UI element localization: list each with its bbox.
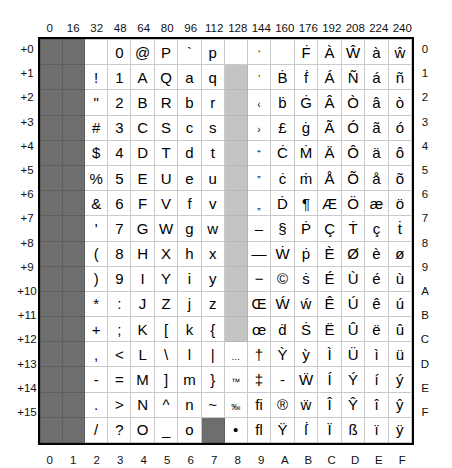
char-cell-85[interactable]: U (154, 165, 177, 190)
char-cell-200[interactable]: È (318, 241, 342, 266)
char-cell-127[interactable] (201, 417, 224, 442)
char-cell-116[interactable]: t (201, 140, 224, 165)
char-cell-245[interactable]: õ (388, 165, 411, 190)
char-cell-108[interactable]: l (178, 342, 201, 367)
char-cell-73[interactable]: I (131, 266, 155, 291)
char-cell-111[interactable]: o (178, 417, 201, 442)
char-cell-112[interactable]: p (201, 40, 224, 65)
char-cell-97[interactable]: a (178, 65, 201, 90)
char-cell-239[interactable]: ï (365, 417, 388, 442)
char-cell-140[interactable]: … (224, 342, 247, 367)
char-cell-227[interactable]: ã (365, 115, 388, 140)
char-cell-202[interactable]: Ê (318, 291, 342, 316)
char-cell-94[interactable]: ^ (154, 392, 177, 417)
char-cell-19[interactable] (62, 115, 84, 140)
char-cell-92[interactable]: \ (154, 342, 177, 367)
char-cell-172[interactable]: Ỳ (271, 342, 294, 367)
char-cell-50[interactable]: 2 (108, 90, 131, 115)
char-cell-93[interactable]: ] (154, 367, 177, 392)
char-cell-214[interactable]: Ö (341, 191, 364, 216)
char-cell-67[interactable]: C (131, 115, 155, 140)
char-cell-243[interactable]: ó (388, 115, 411, 140)
char-cell-130[interactable] (224, 90, 247, 115)
char-cell-192[interactable]: À (318, 40, 342, 65)
char-cell-55[interactable]: 7 (108, 216, 131, 241)
char-cell-0[interactable] (41, 40, 63, 65)
char-cell-21[interactable] (62, 165, 84, 190)
char-cell-23[interactable] (62, 216, 84, 241)
char-cell-253[interactable]: ý (388, 367, 411, 392)
char-cell-40[interactable]: ( (84, 241, 107, 266)
char-cell-125[interactable]: } (201, 367, 224, 392)
char-cell-191[interactable]: ẛ (294, 417, 317, 442)
char-cell-197[interactable]: Å (318, 165, 342, 190)
char-cell-146[interactable]: ‹ (247, 90, 271, 115)
char-cell-236[interactable]: ì (365, 342, 388, 367)
char-cell-133[interactable] (224, 165, 247, 190)
char-cell-42[interactable]: * (84, 291, 107, 316)
char-cell-11[interactable] (41, 317, 63, 342)
char-cell-247[interactable]: ṫ (388, 216, 411, 241)
char-cell-173[interactable]: - (271, 367, 294, 392)
char-cell-15[interactable] (41, 417, 63, 442)
char-cell-182[interactable]: ¶ (294, 191, 317, 216)
char-cell-103[interactable]: g (178, 216, 201, 241)
char-cell-248[interactable]: ø (388, 241, 411, 266)
char-cell-56[interactable]: 8 (108, 241, 131, 266)
char-cell-58[interactable]: : (108, 291, 131, 316)
char-cell-228[interactable]: ä (365, 140, 388, 165)
char-cell-105[interactable]: i (178, 266, 201, 291)
char-cell-251[interactable]: û (388, 317, 411, 342)
char-cell-233[interactable]: é (365, 266, 388, 291)
char-cell-161[interactable]: Ḃ (271, 65, 294, 90)
char-cell-12[interactable] (41, 342, 63, 367)
char-cell-8[interactable] (41, 241, 63, 266)
char-cell-183[interactable]: Ṗ (294, 216, 317, 241)
char-cell-231[interactable]: ç (365, 216, 388, 241)
char-cell-142[interactable]: ‰ (224, 392, 247, 417)
char-cell-184[interactable]: ṗ (294, 241, 317, 266)
char-cell-98[interactable]: b (178, 90, 201, 115)
char-cell-229[interactable]: å (365, 165, 388, 190)
char-cell-78[interactable]: N (131, 392, 155, 417)
char-cell-99[interactable]: c (178, 115, 201, 140)
char-cell-203[interactable]: Ë (318, 317, 342, 342)
char-cell-147[interactable]: › (247, 115, 271, 140)
char-cell-169[interactable]: © (271, 266, 294, 291)
char-cell-188[interactable]: ỳ (294, 342, 317, 367)
char-cell-41[interactable]: ) (84, 266, 107, 291)
char-cell-190[interactable]: ẅ (294, 392, 317, 417)
char-cell-254[interactable]: ŷ (388, 392, 411, 417)
char-cell-206[interactable]: Î (318, 392, 342, 417)
char-cell-230[interactable]: æ (365, 191, 388, 216)
char-cell-68[interactable]: D (131, 140, 155, 165)
char-cell-156[interactable]: † (247, 342, 271, 367)
char-cell-5[interactable] (41, 165, 63, 190)
char-cell-201[interactable]: É (318, 266, 342, 291)
char-cell-129[interactable] (224, 65, 247, 90)
char-cell-114[interactable]: r (201, 90, 224, 115)
char-cell-38[interactable]: & (84, 191, 107, 216)
char-cell-46[interactable]: . (84, 392, 107, 417)
char-cell-171[interactable]: ḋ (271, 317, 294, 342)
char-cell-51[interactable]: 3 (108, 115, 131, 140)
char-cell-176[interactable]: Ḟ (294, 40, 317, 65)
char-cell-86[interactable]: V (154, 191, 177, 216)
char-cell-215[interactable]: Ṫ (341, 216, 364, 241)
char-cell-181[interactable]: ṁ (294, 165, 317, 190)
char-cell-120[interactable]: x (201, 241, 224, 266)
char-cell-121[interactable]: y (201, 266, 224, 291)
char-cell-209[interactable]: Ñ (341, 65, 364, 90)
char-cell-102[interactable]: f (178, 191, 201, 216)
char-cell-134[interactable] (224, 191, 247, 216)
char-cell-221[interactable]: Ý (341, 367, 364, 392)
char-cell-225[interactable]: á (365, 65, 388, 90)
char-cell-194[interactable]: Â (318, 90, 342, 115)
char-cell-81[interactable]: Q (154, 65, 177, 90)
char-cell-37[interactable]: % (84, 165, 107, 190)
char-cell-101[interactable]: e (178, 165, 201, 190)
char-cell-24[interactable] (62, 241, 84, 266)
char-cell-119[interactable]: w (201, 216, 224, 241)
char-cell-136[interactable] (224, 241, 247, 266)
char-cell-87[interactable]: W (154, 216, 177, 241)
